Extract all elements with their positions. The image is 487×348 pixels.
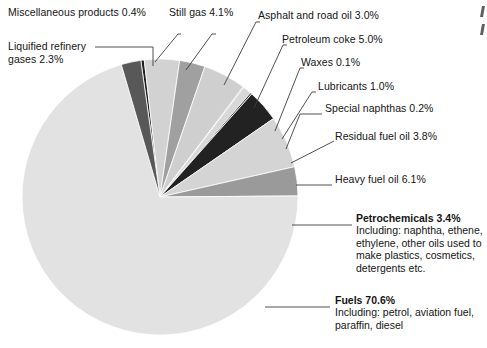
pie-chart-figure: Miscellaneous products 0.4% Liquified re…: [0, 0, 487, 348]
callout-petrochemicals-heading: Petrochemicals 3.4%: [356, 212, 487, 224]
callout-fuels-body: Including: petrol, aviation fuel, paraff…: [335, 306, 487, 331]
clipped-page-edge-marks: [473, 6, 487, 46]
leader-line-petroleum-coke: [254, 45, 287, 108]
callout-petrochemicals-body: Including: naphtha, ethene, ethylene, ot…: [356, 224, 487, 274]
leader-line-miscellaneous-products: [155, 34, 181, 62]
leader-line-asphalt-and-road-oil: [224, 22, 260, 85]
callout-fuels-heading: Fuels 70.6%: [335, 294, 487, 306]
leader-line-special-naphthas: [286, 114, 322, 149]
callout-fuels: Fuels 70.6% Including: petrol, aviation …: [335, 294, 487, 331]
label-residual-fuel-oil: Residual fuel oil 3.8%: [335, 130, 437, 143]
label-lubricants: Lubricants 1.0%: [318, 80, 394, 93]
label-heavy-fuel-oil: Heavy fuel oil 6.1%: [335, 173, 426, 186]
clipped-glyph-fragment: [480, 6, 485, 17]
label-still-gas: Still gas 4.1%: [169, 6, 233, 19]
label-miscellaneous-products: Miscellaneous products 0.4%: [8, 6, 146, 19]
leader-line-waxes: [275, 68, 304, 131]
leader-line-residual-fuel-oil: [291, 141, 334, 163]
label-liquified-refinery-gases-line2: gases 2.3%: [8, 53, 63, 65]
label-petroleum-coke: Petroleum coke 5.0%: [282, 33, 383, 46]
label-asphalt-and-road-oil: Asphalt and road oil 3.0%: [258, 9, 379, 22]
label-special-naphthas: Special naphthas 0.2%: [325, 102, 433, 115]
clipped-glyph-fragment: [480, 24, 485, 35]
pie-slice-group: [22, 59, 298, 335]
label-liquified-refinery-gases-line1: Liquified refinery: [8, 40, 86, 52]
callout-petrochemicals: Petrochemicals 3.4% Including: naphtha, …: [356, 212, 487, 274]
label-waxes: Waxes 0.1%: [301, 56, 360, 69]
label-liquified-refinery-gases: Liquified refinery gases 2.3%: [8, 40, 100, 65]
